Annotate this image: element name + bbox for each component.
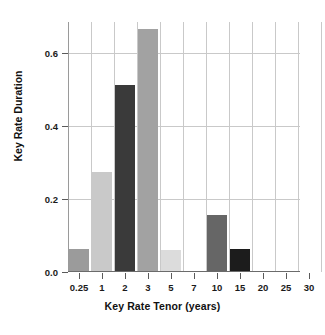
- bar-0-25y: [69, 249, 89, 272]
- x-tick-label: 15: [235, 282, 246, 293]
- x-tick-mark: [263, 273, 264, 279]
- x-tick-mark: [148, 273, 149, 279]
- key-rate-duration-bar-chart: Key Rate Tenor (years) Key Rate Duration…: [0, 0, 325, 335]
- bar-3y: [138, 29, 158, 272]
- gridline-horizontal: [68, 126, 300, 127]
- x-tick-mark: [309, 273, 310, 279]
- x-tick-label: 3: [145, 282, 150, 293]
- x-tick-mark: [125, 273, 126, 279]
- y-tick-label: 0.2: [18, 194, 58, 205]
- x-axis-title: Key Rate Tenor (years): [0, 300, 325, 312]
- x-tick-label: 30: [304, 282, 315, 293]
- y-tick-mark: [62, 126, 68, 127]
- y-tick-label: 0.4: [18, 121, 58, 132]
- x-tick-mark: [194, 273, 195, 279]
- x-tick-mark: [217, 273, 218, 279]
- gridline-vertical: [252, 22, 253, 272]
- x-tick-label: 1: [99, 282, 104, 293]
- x-tick-label: 0.25: [70, 282, 89, 293]
- gridline-vertical: [298, 22, 299, 272]
- bar-2y: [115, 85, 135, 272]
- x-tick-label: 2: [122, 282, 127, 293]
- x-tick-label: 20: [258, 282, 269, 293]
- x-tick-label: 25: [281, 282, 292, 293]
- bar-10y: [207, 215, 227, 272]
- bar-15y: [230, 249, 250, 272]
- x-tick-mark: [240, 273, 241, 279]
- x-tick-mark: [79, 273, 80, 279]
- y-axis-title: Key Rate Duration: [12, 36, 24, 196]
- bar-5y: [161, 250, 181, 272]
- gridline-vertical: [275, 22, 276, 272]
- gridline-vertical: [229, 22, 230, 272]
- y-axis-line: [68, 22, 69, 272]
- y-tick-mark: [62, 53, 68, 54]
- x-axis-line: [68, 271, 300, 272]
- y-tick-label: 0.0: [18, 267, 58, 278]
- x-tick-label: 7: [191, 282, 196, 293]
- x-tick-mark: [171, 273, 172, 279]
- gridline-horizontal: [68, 53, 300, 54]
- gridline-vertical: [183, 22, 184, 272]
- x-tick-label: 10: [212, 282, 223, 293]
- y-tick-label: 0.6: [18, 48, 58, 59]
- x-tick-label: 5: [168, 282, 173, 293]
- x-tick-mark: [286, 273, 287, 279]
- plot-area: [68, 22, 300, 272]
- gridline-vertical: [160, 22, 161, 272]
- y-tick-mark: [62, 199, 68, 200]
- y-tick-mark: [62, 272, 68, 273]
- gridline-vertical: [321, 22, 322, 272]
- bar-1y: [92, 172, 112, 272]
- x-tick-mark: [102, 273, 103, 279]
